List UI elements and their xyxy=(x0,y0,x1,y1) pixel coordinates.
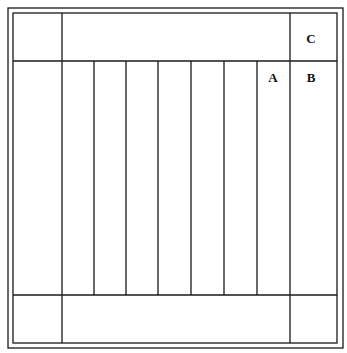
label-b: B xyxy=(307,70,316,85)
outer-frame xyxy=(8,8,343,348)
label-a: A xyxy=(268,70,278,85)
grid-diagram: C A B xyxy=(0,0,347,353)
strip-lines xyxy=(94,61,257,295)
label-c: C xyxy=(306,31,315,46)
